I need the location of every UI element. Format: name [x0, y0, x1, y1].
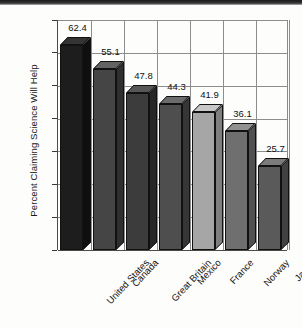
y-gridline [58, 250, 287, 251]
y-axis-tick [52, 85, 57, 86]
bar-value-label: 25.7 [253, 143, 299, 154]
bar-front-face [225, 131, 248, 250]
bar-front-face [60, 45, 83, 250]
x-gridline [256, 20, 257, 250]
bar: 62.4 [60, 45, 83, 250]
x-gridline [190, 20, 191, 250]
bar-front-face [258, 166, 281, 250]
x-gridline [289, 20, 290, 250]
bar-front-face [192, 112, 215, 250]
bar-chart: Percent Claiming Science Will Help 01020… [0, 0, 302, 328]
bar: 25.7 [258, 166, 281, 250]
y-axis-title: Percent Claiming Science Will Help [28, 46, 39, 236]
x-gridline [157, 20, 158, 250]
bar-front-face [126, 93, 149, 250]
bar-side-face [215, 105, 223, 250]
x-axis-category-label: Norway [261, 257, 291, 288]
bar-side-face [116, 61, 124, 250]
bar-side-face [281, 158, 289, 250]
y-axis-tick [52, 118, 57, 119]
x-axis-category-label: France [227, 257, 255, 286]
x-gridline [223, 20, 224, 250]
plot-area: 01020304050607062.455.147.844.341.936.12… [57, 20, 288, 250]
bar: 41.9 [192, 112, 215, 250]
bar-value-label: 41.9 [187, 89, 233, 100]
y-gridline [58, 20, 287, 21]
bar-front-face [93, 69, 116, 250]
y-axis-tick [52, 184, 57, 185]
bar: 44.3 [159, 104, 182, 250]
y-axis-tick [52, 250, 57, 251]
bar-value-label: 36.1 [220, 108, 266, 119]
bar: 36.1 [225, 131, 248, 250]
bar-value-label: 55.1 [88, 46, 134, 57]
bar-side-face [149, 85, 157, 250]
y-axis-tick [52, 52, 57, 53]
bar-value-label: 47.8 [121, 70, 167, 81]
x-axis-category-label: Japan [292, 257, 302, 283]
bar-value-label: 62.4 [55, 22, 101, 33]
bar-front-face [159, 104, 182, 250]
bar-side-face [83, 37, 91, 250]
bar: 47.8 [126, 93, 149, 250]
y-axis-tick [52, 20, 57, 21]
bar-side-face [182, 97, 190, 250]
y-axis-tick [52, 217, 57, 218]
bar: 55.1 [93, 69, 116, 250]
y-axis-tick [52, 151, 57, 152]
